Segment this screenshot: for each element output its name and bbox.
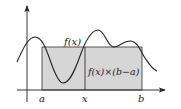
axis-label-x: x <box>82 93 88 104</box>
area-label: f(x)×(b−a) <box>87 66 140 77</box>
axis-label-a: a <box>39 93 45 104</box>
curve-label: f(x) <box>63 36 81 47</box>
mean-value-diagram: f(x) f(x)×(b−a) a x b <box>0 0 181 109</box>
axis-label-b: b <box>138 93 144 104</box>
diagram-canvas: f(x) f(x)×(b−a) a x b <box>0 0 181 109</box>
